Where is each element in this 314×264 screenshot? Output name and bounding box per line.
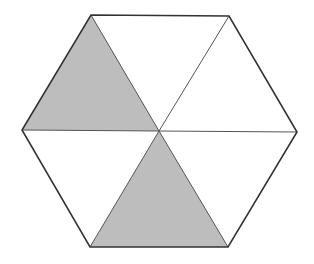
hexagon-diagram bbox=[0, 0, 314, 264]
